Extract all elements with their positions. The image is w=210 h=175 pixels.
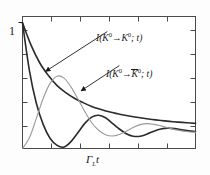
c2-arrow-icon: → [122, 69, 132, 79]
y-axis-tick-label: 1 [9, 25, 15, 37]
c2-k-second-overline: K [131, 69, 137, 80]
x-axis-t: t [96, 153, 99, 165]
kaon-oscillation-plot [0, 0, 210, 175]
curve-label-k0-to-k0: I(K0→K0; t) [96, 32, 142, 44]
curve-label-k0-to-k0bar: I(K0→K0; t) [106, 68, 152, 80]
c1-arrow-icon: → [112, 33, 122, 43]
c1-suffix: ; t) [131, 33, 142, 43]
c2-suffix: ; t) [141, 69, 152, 79]
figure-container: 1 ΓLt I(K0→K0; t) I(K0→K0; t) [0, 0, 210, 175]
c2-k-second: K [131, 69, 137, 79]
x-axis-label: ΓLt [86, 154, 99, 168]
